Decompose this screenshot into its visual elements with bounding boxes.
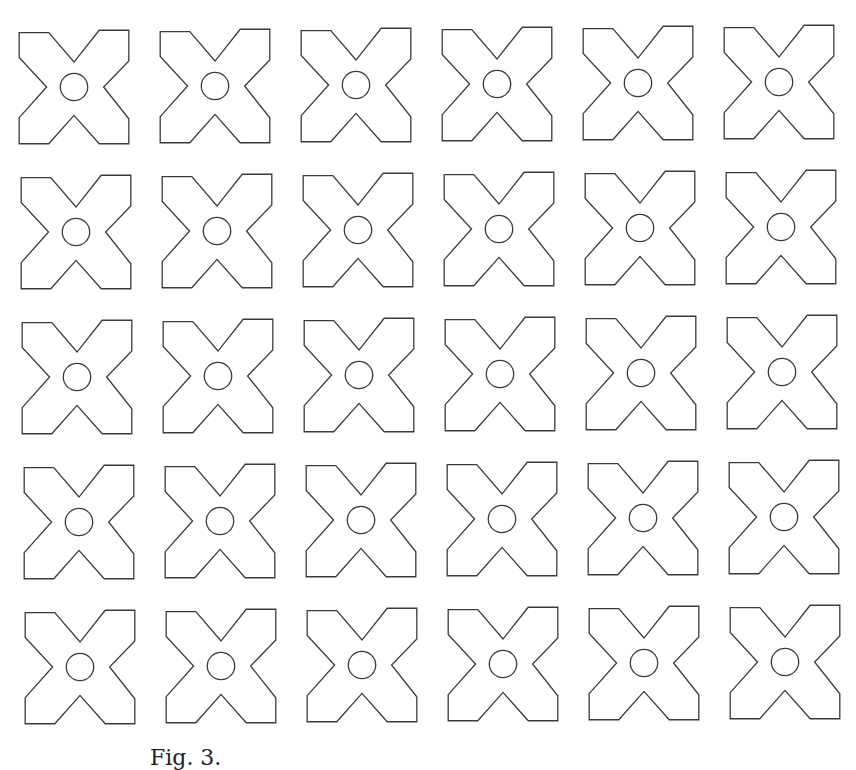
cross-shape bbox=[161, 317, 275, 435]
cross-star-icon bbox=[17, 28, 131, 146]
cross-shape bbox=[724, 168, 838, 286]
cross-shape bbox=[584, 314, 698, 432]
cross-shape bbox=[305, 606, 419, 724]
cross-star-icon bbox=[20, 318, 134, 436]
cross-star-icon bbox=[302, 316, 416, 434]
cross-star-icon bbox=[443, 315, 557, 433]
cross-shape bbox=[443, 315, 557, 433]
cross-star-icon bbox=[164, 607, 278, 725]
cross-star-icon bbox=[728, 603, 842, 721]
cross-star-icon bbox=[584, 314, 698, 432]
cross-star-icon bbox=[301, 171, 415, 289]
cross-star-icon bbox=[161, 317, 275, 435]
cross-star-icon bbox=[446, 605, 560, 723]
cross-star-icon bbox=[586, 459, 700, 577]
cross-star-icon bbox=[442, 170, 556, 288]
cross-shape bbox=[160, 172, 274, 290]
cross-shape bbox=[163, 462, 277, 580]
cross-shape bbox=[19, 173, 133, 291]
figure-caption: Fig. 3. bbox=[150, 745, 221, 770]
cross-shape bbox=[299, 26, 413, 144]
cross-star-icon bbox=[23, 608, 137, 726]
cross-star-icon bbox=[158, 27, 272, 145]
cross-star-icon bbox=[581, 24, 695, 142]
cross-shape bbox=[23, 608, 137, 726]
cross-star-icon bbox=[440, 25, 554, 143]
cross-star-icon bbox=[299, 26, 413, 144]
cross-shape bbox=[301, 171, 415, 289]
cross-shape bbox=[728, 603, 842, 721]
cross-shape bbox=[445, 460, 559, 578]
cross-star-icon bbox=[19, 173, 133, 291]
cross-star-icon bbox=[583, 169, 697, 287]
cross-shape bbox=[583, 169, 697, 287]
cross-star-icon bbox=[724, 168, 838, 286]
cross-star-icon bbox=[727, 458, 841, 576]
cross-shape bbox=[581, 24, 695, 142]
cross-shape bbox=[304, 461, 418, 579]
cross-shape bbox=[586, 459, 700, 577]
cross-shape bbox=[725, 313, 839, 431]
cross-star-icon bbox=[305, 606, 419, 724]
cross-star-icon bbox=[160, 172, 274, 290]
cross-shape bbox=[22, 463, 136, 581]
cross-shape bbox=[164, 607, 278, 725]
cross-star-icon bbox=[725, 313, 839, 431]
cross-shape bbox=[722, 23, 836, 141]
cross-star-icon bbox=[22, 463, 136, 581]
cross-shape bbox=[158, 27, 272, 145]
cross-shape bbox=[587, 604, 701, 722]
cross-shape bbox=[442, 170, 556, 288]
cross-shape bbox=[17, 28, 131, 146]
cross-shape bbox=[446, 605, 560, 723]
cross-star-icon bbox=[163, 462, 277, 580]
cross-shape bbox=[727, 458, 841, 576]
cross-star-icon bbox=[587, 604, 701, 722]
cross-shape bbox=[440, 25, 554, 143]
cross-star-icon bbox=[722, 23, 836, 141]
cross-shape bbox=[20, 318, 134, 436]
cross-star-icon bbox=[445, 460, 559, 578]
cross-shape bbox=[302, 316, 416, 434]
cross-star-icon bbox=[304, 461, 418, 579]
